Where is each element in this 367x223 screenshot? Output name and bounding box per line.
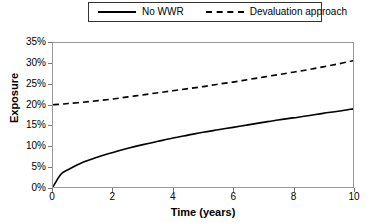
x-tick-label: 4 xyxy=(161,192,185,202)
y-axis-title: Exposure xyxy=(8,53,20,143)
chart-legend: No WWR Devaluation approach xyxy=(88,2,322,22)
x-tick-mark xyxy=(233,188,234,192)
exposure-line-chart: No WWR Devaluation approach 0%5%10%15%20… xyxy=(0,0,367,223)
y-tick-label: 5% xyxy=(16,162,46,172)
x-tick-mark xyxy=(294,188,295,192)
x-tick-mark xyxy=(52,188,53,192)
series-canvas xyxy=(53,43,353,187)
x-tick-label: 10 xyxy=(342,192,366,202)
x-axis-title: Time (years) xyxy=(52,206,354,218)
y-tick-label: 10% xyxy=(16,141,46,151)
x-tick-mark xyxy=(112,188,113,192)
x-tick-mark xyxy=(354,188,355,192)
x-tick-label: 2 xyxy=(100,192,124,202)
x-tick-label: 8 xyxy=(282,192,306,202)
y-tick-label: 30% xyxy=(16,58,46,68)
legend-label-devaluation-approach: Devaluation approach xyxy=(250,7,347,17)
x-tick-mark xyxy=(173,188,174,192)
x-tick-label: 6 xyxy=(221,192,245,202)
y-tick-label: 15% xyxy=(16,120,46,130)
x-tick-label: 0 xyxy=(40,192,64,202)
legend-label-no-wwr: No WWR xyxy=(142,7,184,17)
legend-swatch-solid-line-icon xyxy=(98,11,136,13)
legend-entry-devaluation-approach: Devaluation approach xyxy=(206,3,347,21)
legend-entry-no-wwr: No WWR xyxy=(98,3,184,21)
y-tick-label: 35% xyxy=(16,37,46,47)
legend-swatch-dashed-line-icon xyxy=(206,11,244,13)
y-tick-label: 20% xyxy=(16,100,46,110)
plot-area xyxy=(52,42,354,188)
series-line-devaluation-approach xyxy=(53,61,353,105)
series-line-no-wwr xyxy=(53,109,353,187)
y-tick-label: 25% xyxy=(16,79,46,89)
